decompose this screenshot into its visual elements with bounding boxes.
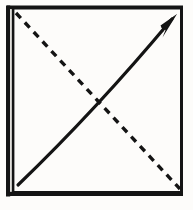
figure-svg: Square frame with dashed diagonal and cu… [0, 0, 193, 210]
frame-right-border [180, 6, 183, 196]
frame-left-border-inner [12, 8, 15, 193]
frame-left-border-outer [6, 6, 10, 197]
frame-top-border [7, 6, 183, 10]
frame-left-border-gap [10, 9, 12, 192]
frame-bottom-border [7, 191, 183, 196]
diagram-canvas: Square frame with dashed diagonal and cu… [0, 0, 193, 210]
